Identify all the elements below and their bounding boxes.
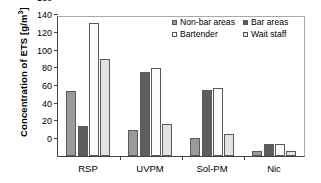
y-tick: 160 [30, 0, 58, 6]
legend-row: Non-bar areas Bar areas [172, 16, 300, 28]
bar-sol-pm-series-3 [224, 134, 234, 156]
bar-uvpm-series-0 [128, 130, 138, 156]
x-axis-label-rsp: RSP [78, 163, 98, 174]
x-tick-mark [120, 156, 121, 160]
legend-label: Bar areas [251, 17, 288, 27]
legend-item-wait-staff[interactable]: Wait staff [243, 29, 286, 39]
y-tick-label: 80 [30, 63, 52, 73]
y-tick: 40 [30, 94, 58, 112]
legend-item-non-bar-areas[interactable]: Non-bar areas [172, 17, 243, 27]
y-axis-title-superscript: 3 [17, 11, 24, 15]
legend-row: Bartender Wait staff [172, 28, 300, 40]
y-axis-title-text: Concentration of ETS [g/m [18, 15, 29, 137]
x-axis-label-sol-pm: Sol-PM [196, 163, 227, 174]
y-tick: 20 [30, 111, 58, 129]
bar-nic-series-2 [275, 144, 285, 156]
y-axis-title-suffix: ] [18, 7, 29, 10]
legend-swatch-icon [172, 32, 177, 37]
y-tick-label: 20 [30, 116, 52, 126]
y-tick-mark [54, 85, 58, 86]
legend-item-bar-areas[interactable]: Bar areas [243, 17, 288, 27]
bar-nic-series-0 [252, 151, 262, 156]
bar-uvpm-series-2 [151, 68, 161, 156]
y-tick-label: 60 [30, 81, 52, 91]
y-tick-label: 40 [30, 99, 52, 109]
x-tick-mark [244, 156, 245, 160]
y-tick-label: 140 [30, 10, 52, 20]
y-tick: 100 [30, 41, 58, 59]
bar-rsp-series-2 [89, 23, 99, 156]
y-tick-mark [54, 67, 58, 68]
y-tick-mark [54, 50, 58, 51]
y-tick-label: 160 [30, 0, 52, 3]
y-tick: 0 [30, 129, 58, 147]
y-tick-label: 100 [30, 46, 52, 56]
y-tick: 120 [30, 23, 58, 41]
x-tick-mark [182, 156, 183, 160]
bar-sol-pm-series-1 [202, 90, 212, 156]
y-tick-mark [54, 103, 58, 104]
y-tick: 60 [30, 76, 58, 94]
y-tick-mark [54, 120, 58, 121]
y-tick-mark [54, 32, 58, 33]
legend-swatch-icon [243, 32, 248, 37]
y-tick: 80 [30, 59, 58, 77]
chart-legend: Non-bar areas Bar areas Bartender Wait s… [172, 16, 300, 40]
bar-sol-pm-series-2 [213, 88, 223, 156]
legend-label: Bartender [180, 29, 218, 39]
y-axis-title: Concentration of ETS [g/m3] [17, 0, 29, 147]
y-tick-label: 120 [30, 28, 52, 38]
legend-swatch-icon [172, 20, 177, 25]
legend-item-bartender[interactable]: Bartender [172, 29, 243, 39]
bar-rsp-series-3 [100, 59, 110, 156]
bar-rsp-series-0 [66, 91, 76, 156]
bar-nic-series-3 [286, 151, 296, 156]
legend-label: Non-bar areas [180, 17, 235, 27]
bar-nic-series-1 [264, 144, 274, 156]
y-tick: 140 [30, 6, 58, 24]
ets-concentration-bar-chart: Concentration of ETS [g/m3] 020406080100… [0, 0, 321, 183]
legend-swatch-icon [243, 20, 248, 25]
bar-uvpm-series-3 [162, 124, 172, 156]
y-tick-mark [54, 138, 58, 139]
y-tick-label: 0 [30, 134, 52, 144]
bar-sol-pm-series-0 [190, 138, 200, 156]
legend-label: Wait staff [251, 29, 286, 39]
x-axis-label-nic: Nic [267, 163, 281, 174]
bar-rsp-series-1 [78, 126, 88, 156]
x-axis-label-uvpm: UVPM [136, 163, 163, 174]
bar-uvpm-series-1 [140, 72, 150, 156]
y-tick-mark [54, 14, 58, 15]
